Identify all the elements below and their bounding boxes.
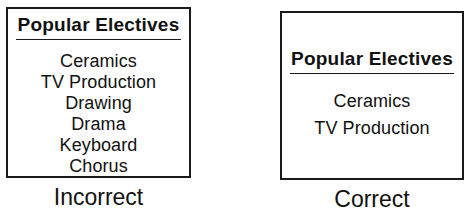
list-item: Ceramics: [290, 88, 454, 115]
list-title-incorrect: Popular Electives: [16, 13, 181, 37]
list-title-correct: Popular Electives: [290, 47, 454, 71]
list-item: Chorus: [16, 156, 181, 177]
title-underline-incorrect: [16, 39, 181, 40]
panel-incorrect: Popular Electives Ceramics TV Production…: [6, 7, 191, 211]
list-item: Keyboard: [16, 135, 181, 156]
list-item: Drama: [16, 114, 181, 135]
list-item: Ceramics: [16, 51, 181, 72]
caption-incorrect: Incorrect: [54, 183, 143, 211]
list-item: TV Production: [290, 115, 454, 142]
panel-correct: Popular Electives Ceramics TV Production…: [280, 11, 464, 213]
caption-correct: Correct: [334, 185, 409, 213]
list-item: Drawing: [16, 93, 181, 114]
electives-box-correct: Popular Electives Ceramics TV Production: [280, 11, 464, 180]
comparison-diagram: Popular Electives Ceramics TV Production…: [0, 0, 471, 218]
elective-list-incorrect: Ceramics TV Production Drawing Drama Key…: [16, 51, 181, 177]
elective-list-correct: Ceramics TV Production: [290, 88, 454, 142]
list-item: TV Production: [16, 72, 181, 93]
electives-box-incorrect: Popular Electives Ceramics TV Production…: [6, 7, 191, 178]
title-underline-correct: [290, 73, 454, 74]
